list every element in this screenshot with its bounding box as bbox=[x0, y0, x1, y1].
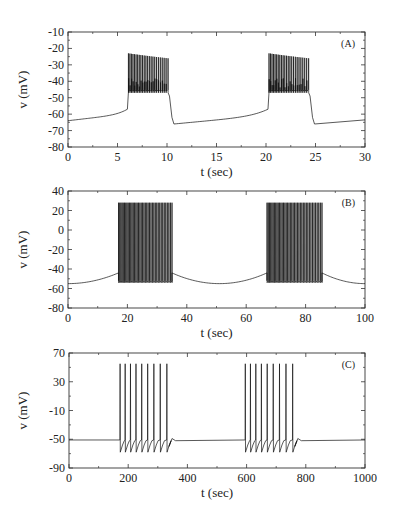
y-tick-label: -20 bbox=[48, 243, 64, 257]
x-tick-label: 0 bbox=[66, 471, 72, 485]
x-tick-label: 0 bbox=[65, 150, 71, 164]
x-tick-label: 0 bbox=[65, 311, 71, 325]
y-axis-label: v (mV) bbox=[15, 231, 30, 269]
panel-c: 020040060080010007030-10-50-90t (sec)v (… bbox=[15, 346, 377, 500]
x-tick-label: 20 bbox=[121, 311, 133, 325]
x-tick-label: 30 bbox=[359, 150, 371, 164]
x-tick-label: 600 bbox=[238, 471, 256, 485]
y-tick-label: -60 bbox=[48, 107, 64, 121]
y-tick-label: 30 bbox=[53, 375, 65, 389]
y-tick-label: -80 bbox=[48, 301, 64, 315]
x-tick-label: 15 bbox=[211, 150, 223, 164]
y-tick-label: -20 bbox=[48, 41, 64, 55]
x-tick-label: 10 bbox=[161, 150, 173, 164]
plot-frame bbox=[68, 32, 365, 147]
y-tick-label: 0 bbox=[58, 223, 64, 237]
x-axis-label: t (sec) bbox=[201, 485, 233, 500]
panel-label: (A) bbox=[341, 38, 355, 50]
y-tick-label: -50 bbox=[49, 432, 65, 446]
y-tick-label: -80 bbox=[48, 140, 64, 154]
x-tick-label: 200 bbox=[119, 471, 137, 485]
y-axis-label: v (mV) bbox=[15, 392, 30, 430]
y-tick-label: -10 bbox=[48, 25, 64, 39]
y-tick-label: -90 bbox=[49, 461, 65, 475]
x-tick-label: 20 bbox=[260, 150, 272, 164]
y-tick-label: -60 bbox=[48, 282, 64, 296]
x-tick-label: 800 bbox=[297, 471, 315, 485]
panel-b: 02040608010040200-20-40-60-80t (sec)v (m… bbox=[15, 184, 374, 340]
y-tick-label: -40 bbox=[48, 74, 64, 88]
y-axis-label: v (mV) bbox=[15, 71, 30, 109]
plot-frame bbox=[69, 353, 365, 468]
y-tick-label: -50 bbox=[48, 91, 64, 105]
x-axis-label: t (sec) bbox=[200, 164, 232, 179]
voltage-trace bbox=[69, 364, 365, 452]
y-tick-label: -70 bbox=[48, 124, 64, 138]
y-tick-label: -10 bbox=[49, 404, 65, 418]
y-tick-label: 70 bbox=[53, 346, 65, 360]
y-tick-label: 40 bbox=[52, 184, 64, 198]
x-tick-label: 5 bbox=[115, 150, 121, 164]
panel-label: (C) bbox=[342, 359, 355, 371]
x-tick-label: 100 bbox=[356, 311, 374, 325]
x-tick-label: 40 bbox=[181, 311, 193, 325]
x-tick-label: 1000 bbox=[353, 471, 377, 485]
voltage-trace bbox=[68, 203, 365, 284]
voltage-trace bbox=[68, 53, 365, 124]
x-tick-label: 80 bbox=[300, 311, 312, 325]
panel-a: 051015202530-10-20-30-40-50-60-70-80t (s… bbox=[15, 25, 371, 179]
panel-label: (B) bbox=[342, 197, 355, 209]
x-tick-label: 60 bbox=[240, 311, 252, 325]
x-tick-label: 400 bbox=[178, 471, 196, 485]
figure: 051015202530-10-20-30-40-50-60-70-80t (s… bbox=[0, 0, 394, 522]
x-axis-label: t (sec) bbox=[200, 325, 232, 340]
x-tick-label: 25 bbox=[310, 150, 322, 164]
y-tick-label: -30 bbox=[48, 58, 64, 72]
y-tick-label: 20 bbox=[52, 204, 64, 218]
y-tick-label: -40 bbox=[48, 262, 64, 276]
